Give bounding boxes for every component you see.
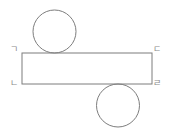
vertex-label-top-right: ㄷ xyxy=(153,45,161,54)
vertex-label-bottom-right: ㄹ xyxy=(153,79,161,88)
rectangle-shape xyxy=(22,53,152,84)
figure-canvas xyxy=(0,0,173,135)
top-circle-shape xyxy=(33,10,76,53)
vertex-label-bottom-left: ㄴ xyxy=(10,79,18,88)
geometry-figure: ㄱ ㄷ ㄴ ㄹ xyxy=(0,0,173,135)
vertex-label-top-left: ㄱ xyxy=(10,45,18,54)
bottom-circle-shape xyxy=(97,84,140,127)
